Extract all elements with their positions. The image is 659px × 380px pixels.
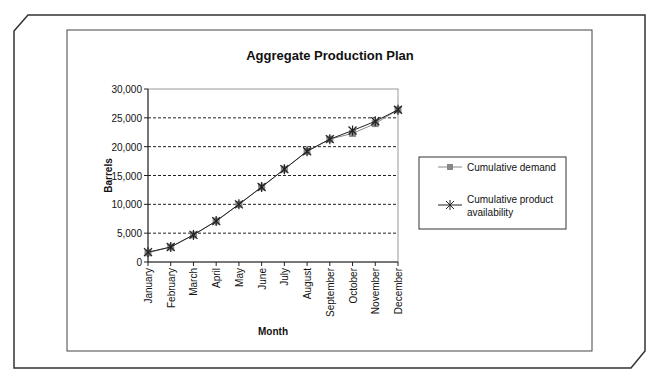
svg-text:Cumulative product: Cumulative product	[467, 194, 553, 205]
x-tick-label: March	[188, 268, 199, 296]
x-tick-label: August	[302, 268, 313, 299]
svg-text:availability: availability	[467, 207, 513, 218]
x-tick-label: February	[166, 268, 177, 308]
x-tick-label: December	[393, 267, 404, 314]
svg-text:Cumulative demand: Cumulative demand	[467, 162, 556, 173]
legend: Cumulative demand Cumulative product ava…	[419, 157, 566, 229]
x-tick-label: April	[211, 268, 222, 288]
x-tick-label: June	[257, 268, 268, 290]
x-axis-title: Month	[258, 326, 288, 337]
y-tick-label: 5,000	[117, 228, 142, 239]
chart-title: Aggregate Production Plan	[246, 48, 414, 63]
x-tick-label: September	[325, 267, 336, 317]
chart-figure: Aggregate Production Plan 05,00010,00015…	[0, 0, 659, 380]
y-axis-title: Barrels	[103, 158, 114, 193]
x-tick-label: May	[234, 268, 245, 287]
x-tick-label: October	[348, 267, 359, 303]
square-marker-icon	[447, 164, 453, 170]
x-tick-label: November	[370, 267, 381, 314]
x-tick-label: January	[143, 268, 154, 304]
x-tick-label: July	[279, 268, 290, 286]
y-tick-label: 30,000	[111, 84, 142, 95]
y-tick-label: 0	[136, 257, 142, 268]
y-tick-label: 20,000	[111, 142, 142, 153]
y-tick-label: 10,000	[111, 199, 142, 210]
y-tick-label: 15,000	[111, 171, 142, 182]
y-tick-label: 25,000	[111, 113, 142, 124]
